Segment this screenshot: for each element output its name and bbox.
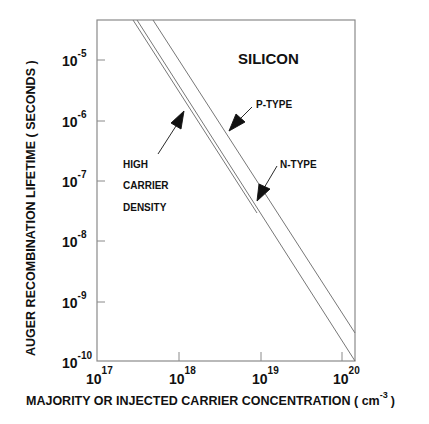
n-type-label: N-TYPE xyxy=(280,159,317,170)
svg-text:10-9: 10-9 xyxy=(62,290,87,311)
svg-text:1017: 1017 xyxy=(86,365,113,387)
svg-text:1020: 1020 xyxy=(333,365,360,387)
svg-text:10-6: 10-6 xyxy=(62,109,87,130)
p-type-label: P-TYPE xyxy=(256,99,292,110)
svg-text:10-10: 10-10 xyxy=(62,350,92,371)
svg-text:10-8: 10-8 xyxy=(62,229,87,250)
svg-text:10-5: 10-5 xyxy=(62,48,87,69)
y-tick-labels: 10-5 10-6 10-7 10-8 10-9 10-10 xyxy=(62,48,92,371)
x-tick-labels: 1017 1018 1019 1020 xyxy=(86,365,360,387)
high-carrier-label-2: CARRIER xyxy=(123,180,169,191)
y-ticks xyxy=(97,60,105,302)
auger-lifetime-chart: 10-5 10-6 10-7 10-8 10-9 10-10 1017 1018… xyxy=(0,0,429,424)
svg-text:10-7: 10-7 xyxy=(62,169,87,190)
chart-title: SILICON xyxy=(238,50,299,67)
svg-text:1019: 1019 xyxy=(252,365,279,387)
n-type-arrow-shaft xyxy=(264,166,277,188)
svg-text:1018: 1018 xyxy=(169,365,196,387)
high-carrier-arrow-head xyxy=(171,111,184,129)
high-carrier-label-3: DENSITY xyxy=(123,202,167,213)
y-axis-label: AUGER RECOMBINATION LIFETIME ( SECONDS ) xyxy=(24,60,38,356)
n-type-line xyxy=(137,20,355,361)
annotation-arrows xyxy=(158,107,277,201)
x-ticks xyxy=(179,352,342,361)
high-carrier-arrow-shaft xyxy=(158,126,176,154)
high-carrier-label-1: HIGH xyxy=(123,159,148,170)
x-axis-label: MAJORITY OR INJECTED CARRIER CONCENTRATI… xyxy=(26,390,395,408)
